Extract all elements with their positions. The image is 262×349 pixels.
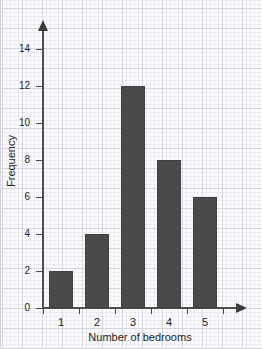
x-axis-tick-label: 4 — [157, 316, 181, 328]
y-axis-tick — [36, 160, 43, 161]
x-axis-arrow-icon — [236, 303, 247, 313]
y-axis-tick-label: 14 — [0, 44, 30, 54]
y-axis-tick — [36, 197, 43, 198]
x-axis-tick — [187, 308, 188, 314]
y-axis-tick — [36, 123, 43, 124]
y-axis-title: Frequency — [5, 126, 17, 196]
bar-category-2 — [85, 234, 109, 308]
y-axis-tick-label: 2 — [0, 266, 30, 276]
y-axis-tick — [36, 86, 43, 87]
x-axis-tick-label: 5 — [193, 316, 217, 328]
x-axis-tick-label: 2 — [85, 316, 109, 328]
bar-category-3 — [121, 86, 145, 308]
y-axis-arrow-icon — [38, 20, 48, 31]
bar-category-4 — [157, 160, 181, 308]
x-axis-tick — [151, 308, 152, 314]
y-axis-tick-label: 4 — [0, 229, 30, 239]
bar-chart: 0 2 4 6 8 10 12 14 1 2 3 4 5 Number of b… — [0, 0, 262, 349]
x-axis-tick — [43, 308, 44, 314]
y-axis-tick — [36, 271, 43, 272]
bar-category-5 — [193, 197, 217, 308]
y-axis-tick — [36, 234, 43, 235]
x-axis-tick-label: 3 — [121, 316, 145, 328]
x-axis-tick — [115, 308, 116, 314]
y-axis-line — [42, 30, 44, 309]
x-axis-tick — [79, 308, 80, 314]
y-axis-tick-label: 12 — [0, 81, 30, 91]
bar-category-1 — [49, 271, 73, 308]
y-axis-tick — [36, 49, 43, 50]
x-axis-tick-label: 1 — [49, 316, 73, 328]
y-axis-tick-label: 0 — [0, 303, 30, 313]
x-axis-title: Number of bedrooms — [42, 331, 238, 343]
x-axis-tick — [223, 308, 224, 314]
y-axis-tick — [36, 308, 43, 309]
plot-area: 0 2 4 6 8 10 12 14 1 2 3 4 5 Number of b… — [0, 0, 262, 349]
